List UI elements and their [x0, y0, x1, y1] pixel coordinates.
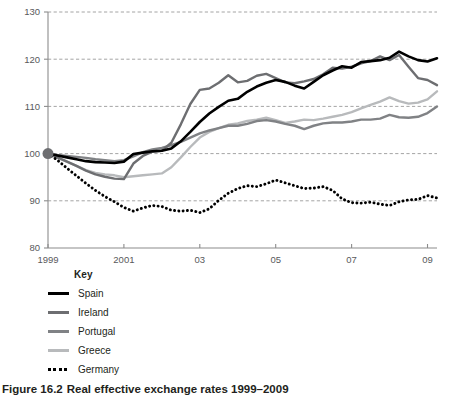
- x-tick-label-2009: 09: [422, 254, 433, 265]
- y-tick-label-110: 110: [25, 101, 40, 112]
- legend-swatch-ireland-icon: [48, 311, 74, 314]
- legend-label-ireland: Ireland: [74, 307, 109, 318]
- series-line-spain: [48, 52, 437, 163]
- legend-swatch-greece-icon: [48, 349, 74, 352]
- legend-rows: Spain Ireland Portugal Greece: [48, 284, 308, 379]
- chart-plot-area: 8090100110120130 1999200103050709: [0, 0, 449, 272]
- legend-label-portugal: Portugal: [74, 326, 115, 337]
- y-tick-label-90: 90: [29, 195, 40, 206]
- legend-label-germany: Germany: [74, 364, 119, 375]
- chart-legend: Key Spain Ireland Portugal: [48, 269, 308, 379]
- y-tick-label-80: 80: [29, 242, 40, 253]
- x-tick-label-2007: 07: [346, 254, 357, 265]
- legend-swatch-portugal-icon: [48, 330, 74, 333]
- figure-number: Figure 16.2: [2, 383, 63, 395]
- origin-marker-dot: [43, 148, 54, 159]
- figure-caption: Figure 16.2Real effective exchange rates…: [2, 383, 447, 395]
- x-axis-ticks: 1999200103050709: [37, 244, 432, 265]
- axis-lines: [48, 12, 437, 248]
- legend-item-spain: Spain: [48, 284, 308, 303]
- data-series: [48, 52, 437, 213]
- gridlines: [48, 12, 437, 201]
- y-tick-label-130: 130: [24, 6, 40, 17]
- y-axis-ticks: 8090100110120130: [24, 6, 48, 253]
- x-tick-label-2005: 05: [270, 254, 281, 265]
- legend-item-portugal: Portugal: [48, 322, 308, 341]
- x-tick-label-2001: 2001: [113, 254, 134, 265]
- x-tick-label-1999: 1999: [37, 254, 58, 265]
- figure-container: 8090100110120130 1999200103050709 Key Sp…: [0, 0, 449, 403]
- legend-label-spain: Spain: [74, 288, 104, 299]
- figure-title: Real effective exchange rates 1999–2009: [67, 383, 289, 395]
- legend-item-germany: Germany: [48, 360, 308, 379]
- y-tick-label-100: 100: [24, 148, 40, 159]
- series-line-greece: [48, 91, 437, 177]
- legend-item-greece: Greece: [48, 341, 308, 360]
- origin-marker: [43, 148, 54, 159]
- series-line-portugal: [48, 106, 437, 161]
- legend-item-ireland: Ireland: [48, 303, 308, 322]
- legend-swatch-germany-icon: [48, 368, 74, 371]
- x-tick-label-2003: 03: [195, 254, 206, 265]
- legend-swatch-spain-icon: [48, 292, 74, 295]
- legend-title: Key: [74, 269, 308, 280]
- legend-label-greece: Greece: [74, 345, 111, 356]
- y-tick-label-120: 120: [24, 54, 40, 65]
